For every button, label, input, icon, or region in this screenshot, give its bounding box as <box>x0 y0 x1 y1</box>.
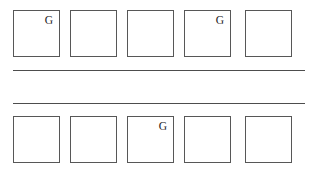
cell[interactable] <box>127 10 174 57</box>
bottom-row: G <box>13 116 292 163</box>
cell[interactable]: G <box>184 10 231 57</box>
top-row: G G <box>13 10 292 57</box>
cell-label: G <box>216 13 224 27</box>
upper-rule <box>13 70 305 71</box>
cell[interactable]: G <box>127 116 174 163</box>
cell[interactable]: G <box>13 10 60 57</box>
cell[interactable] <box>70 116 117 163</box>
cell-label: G <box>45 13 53 27</box>
cell-label: G <box>159 119 167 133</box>
cell[interactable] <box>245 10 292 57</box>
lower-rule <box>13 103 305 104</box>
cell[interactable] <box>245 116 292 163</box>
cell[interactable] <box>70 10 117 57</box>
cell[interactable] <box>184 116 231 163</box>
cell[interactable] <box>13 116 60 163</box>
worksheet-canvas: G G G <box>0 0 322 180</box>
